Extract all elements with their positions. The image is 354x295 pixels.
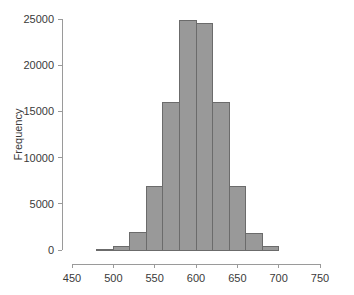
histogram-bar: [262, 247, 279, 250]
histogram-bar: [113, 247, 130, 250]
y-axis-title: Frequency: [12, 108, 24, 160]
x-tick-label: 500: [104, 272, 122, 284]
histogram-figure: 0500010000150002000025000 45050055060065…: [0, 0, 354, 295]
x-tick-label: 550: [145, 272, 163, 284]
y-tick-label: 25000: [23, 13, 54, 25]
histogram-bar: [213, 102, 230, 250]
y-tick-label: 10000: [23, 152, 54, 164]
histogram-bar: [163, 103, 180, 250]
y-tick-label: 5000: [30, 198, 54, 210]
x-tick-label: 650: [228, 272, 246, 284]
frequency-histogram-chart: 0500010000150002000025000 45050055060065…: [0, 0, 354, 295]
x-tick-label: 750: [311, 272, 329, 284]
x-tick-label: 600: [187, 272, 205, 284]
x-tick-label: 450: [63, 272, 81, 284]
y-tick-label: 0: [48, 244, 54, 256]
histogram-bar: [97, 249, 114, 250]
histogram-bar: [229, 186, 246, 250]
histogram-bar: [196, 24, 213, 250]
histogram-bar: [146, 187, 163, 250]
x-tick-label: 700: [269, 272, 287, 284]
histogram-bar: [179, 21, 196, 250]
histogram-bar: [246, 233, 263, 250]
y-tick-label: 20000: [23, 59, 54, 71]
y-tick-label: 15000: [23, 105, 54, 117]
histogram-bar: [130, 233, 147, 250]
